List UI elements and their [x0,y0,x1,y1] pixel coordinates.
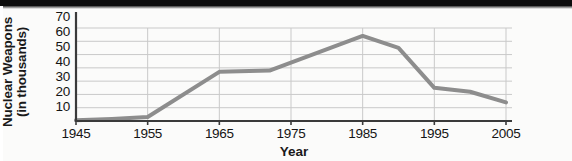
y-axis-title-line-1: Nuclear Weapons [1,17,15,127]
x-axis-title: Year [0,144,572,159]
x-tick-label-1975: 1975 [266,126,316,141]
plot-area [74,12,512,125]
x-axis-title-text: Year [280,144,309,159]
y-tick-label-30: 30 [44,69,70,84]
x-tick-label-1955: 1955 [123,126,173,141]
x-tick-label-1965: 1965 [194,126,244,141]
y-tick-label-10: 10 [44,99,70,114]
y-axis-title-line-2: (in thousands) [15,27,29,117]
chart-figure: Nuclear Weapons (in thousands) 70 60 50 … [0,0,572,161]
chart-canvas [74,12,512,125]
horizontal-gridlines [76,28,512,108]
x-tick-label-1995: 1995 [409,126,459,141]
y-axis-title: Nuclear Weapons (in thousands) [0,8,30,136]
y-tick-label-50: 50 [44,39,70,54]
vertical-gridlines [76,28,506,121]
x-tick-label-1945: 1945 [51,126,101,141]
y-tick-label-40: 40 [44,54,70,69]
x-tick-label-1985: 1985 [338,126,388,141]
x-axis-tick-labels: 1945195519651975198519952005 [0,126,572,144]
y-tick-label-60: 60 [44,24,70,39]
y-tick-label-70: 70 [44,9,70,24]
y-tick-label-20: 20 [44,84,70,99]
x-tick-label-2005: 2005 [481,126,531,141]
scan-artifact-top-fade [0,6,572,9]
